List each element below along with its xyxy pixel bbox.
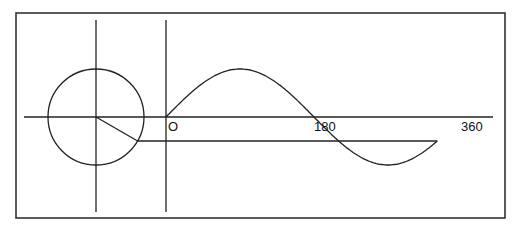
diagram-canvas: O 180 360 [0, 0, 520, 231]
axis-label-origin: O [168, 119, 178, 134]
axis-label-360: 360 [461, 119, 483, 134]
axis-label-180: 180 [314, 119, 336, 134]
diagram-frame [16, 13, 505, 218]
